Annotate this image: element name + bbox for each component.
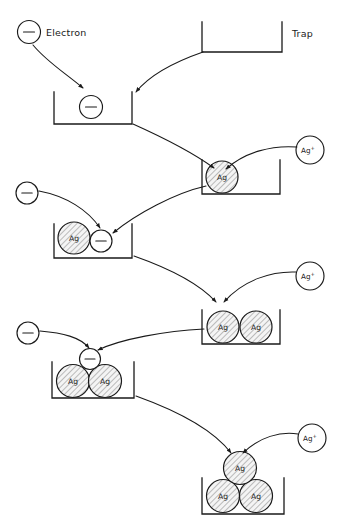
silver-ion-particle-1: Ag+: [296, 136, 324, 164]
silver-atom-label: Ag: [251, 323, 261, 332]
silver-atom-label: Ag: [218, 323, 228, 332]
electron-particle-1: [18, 21, 41, 44]
silver-atom-particle-7: Ag: [207, 480, 240, 513]
silver-atom-particle-9: Ag: [224, 452, 257, 485]
arrow-silver-ion-to-trap-1: [226, 147, 297, 169]
electron-label: Electron: [46, 27, 87, 38]
arrow-stage3-to-stage4: [134, 256, 216, 302]
silver-ion-particle-3: Ag+: [298, 424, 326, 452]
silver-atom-label: Ag: [217, 173, 227, 182]
arrow-stage5-to-stage6: [136, 396, 231, 453]
electron-particle-3: [17, 322, 39, 344]
silver-atom-particle-3: Ag: [207, 311, 239, 343]
arrow-silver-ion-to-trap-2: [224, 272, 296, 302]
stage-4-group: Ag+ Ag Ag: [134, 256, 324, 344]
silver-atom-particle-5: Ag: [57, 365, 90, 398]
arrow-stage2-to-stage3: [113, 186, 206, 233]
arrow-silver-ion-to-cluster-3: [243, 433, 298, 453]
electron-particle-on-cluster: [80, 349, 101, 370]
electron-particle-in-trap-1: [80, 96, 103, 119]
electron-particle-in-trap-2: [90, 230, 112, 252]
stage-5-group: Ag Ag: [17, 322, 204, 398]
silver-atom-label: Ag: [251, 492, 261, 501]
trap-label: Trap: [291, 28, 313, 39]
stage-2-group: Ag+ Ag: [133, 124, 324, 194]
silver-atom-label: Ag: [235, 464, 245, 473]
arrow-stage4-to-stage5: [98, 329, 204, 350]
diagram-canvas: Electron Trap Ag+ Ag: [0, 0, 341, 522]
trap-empty-bracket: [202, 22, 282, 52]
stage-3-group: Ag: [16, 182, 206, 258]
electron-particle-2: [16, 182, 38, 204]
silver-ion-particle-2: Ag+: [296, 262, 324, 290]
silver-atom-label: Ag: [218, 492, 228, 501]
stage-6-group: Ag+ Ag Ag Ag: [136, 396, 326, 514]
arrow-trap-to-filled-trap: [136, 52, 203, 92]
silver-atom-particle-2: Ag: [58, 222, 90, 254]
latent-image-formation-figure: Electron Trap Ag+ Ag: [0, 0, 341, 522]
stage-1-group: Electron Trap: [18, 21, 313, 125]
silver-atom-particle-4: Ag: [240, 311, 272, 343]
silver-atom-label: Ag: [68, 377, 78, 386]
arrow-electron-to-cluster: [40, 331, 89, 348]
silver-atom-label: Ag: [100, 377, 110, 386]
arrow-electron-to-trap: [33, 45, 83, 88]
silver-atom-label: Ag: [69, 234, 79, 243]
